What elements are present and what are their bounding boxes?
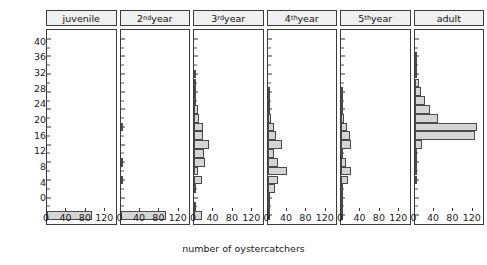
plot-y-tick bbox=[415, 47, 418, 48]
plot-y-tick bbox=[194, 65, 197, 66]
histogram-bar bbox=[415, 70, 418, 79]
plot-y-tick bbox=[47, 179, 51, 180]
histogram-bar bbox=[415, 158, 417, 167]
plot-y-tick bbox=[47, 188, 50, 189]
x-axis-adult: 04080120 bbox=[414, 208, 485, 230]
x-tick-mark bbox=[158, 208, 159, 211]
plot-y-tick bbox=[268, 74, 272, 75]
plot-y-tick bbox=[47, 38, 51, 39]
histogram-bar bbox=[341, 167, 351, 176]
x-tick-mark bbox=[398, 208, 399, 211]
histogram-bar bbox=[341, 184, 343, 193]
plot-y-tick bbox=[121, 65, 124, 66]
plot-y-tick bbox=[47, 135, 50, 136]
plot-y-tick bbox=[194, 47, 197, 48]
histogram-bar bbox=[194, 114, 199, 123]
histogram-bar bbox=[341, 114, 344, 123]
histogram-bar bbox=[341, 96, 343, 105]
histogram-bar bbox=[341, 105, 343, 114]
histogram-bar bbox=[341, 158, 346, 167]
x-tick-mark bbox=[414, 208, 415, 211]
plot-y-tick bbox=[268, 47, 271, 48]
plot-y-tick bbox=[121, 82, 124, 83]
plot-area bbox=[267, 29, 338, 225]
plot-y-tick bbox=[121, 171, 124, 172]
plot-y-tick bbox=[194, 197, 198, 198]
x-tick-label: 120 bbox=[463, 212, 481, 223]
x-tick-label: 120 bbox=[389, 212, 407, 223]
plot-y-tick bbox=[341, 56, 345, 57]
histogram-bar bbox=[341, 140, 351, 149]
histogram-bar bbox=[268, 167, 287, 176]
histogram-bar bbox=[341, 87, 343, 96]
histogram-bar bbox=[415, 79, 420, 88]
histogram-bar bbox=[194, 87, 196, 96]
x-axis-3rd-year: 04080120 bbox=[193, 208, 264, 230]
histogram-bar bbox=[194, 123, 203, 132]
x-axis-row: 0408012004080120040801200408012004080120… bbox=[46, 208, 484, 230]
panel-strip-label: 5th year bbox=[340, 10, 411, 26]
plot-y-tick bbox=[121, 197, 125, 198]
histogram-bar bbox=[268, 193, 270, 202]
x-tick-mark bbox=[251, 208, 252, 211]
histogram-bar bbox=[268, 87, 270, 96]
x-tick-mark bbox=[104, 208, 105, 211]
histogram-bar bbox=[194, 149, 204, 158]
histogram-bar bbox=[268, 184, 276, 193]
histogram-bar bbox=[194, 158, 205, 167]
plot-y-tick bbox=[341, 65, 344, 66]
histogram-bar bbox=[268, 114, 272, 123]
x-tick-label: 0 bbox=[263, 212, 269, 223]
plot-y-tick bbox=[47, 91, 51, 92]
plot-y-tick bbox=[121, 188, 124, 189]
x-tick-label: 40 bbox=[280, 212, 292, 223]
panel-2nd-year: 2nd year bbox=[120, 10, 191, 225]
plot-y-tick bbox=[268, 65, 271, 66]
plot-y-tick bbox=[47, 56, 51, 57]
x-axis-5th-year: 04080120 bbox=[340, 208, 411, 230]
histogram-bar bbox=[415, 87, 422, 96]
x-tick-mark bbox=[286, 208, 287, 211]
plot-y-tick bbox=[341, 47, 344, 48]
plot-y-tick bbox=[121, 47, 124, 48]
x-tick-mark bbox=[193, 208, 194, 211]
plot-y-tick bbox=[47, 127, 51, 128]
histogram-bar bbox=[194, 96, 196, 105]
panel-4th-year: 4th year bbox=[267, 10, 338, 225]
histogram-bar bbox=[415, 149, 417, 158]
plot-y-tick bbox=[47, 206, 50, 207]
x-axis-2nd-year: 04080120 bbox=[120, 208, 191, 230]
histogram-bar bbox=[415, 167, 417, 176]
plot-y-tick bbox=[121, 206, 124, 207]
plot-y-tick bbox=[341, 38, 345, 39]
plot-y-tick bbox=[415, 38, 419, 39]
panel-strip-label: adult bbox=[414, 10, 485, 26]
histogram-bar bbox=[194, 140, 209, 149]
histogram-bar bbox=[268, 105, 271, 114]
plot-y-tick bbox=[47, 100, 50, 101]
histogram-bar bbox=[341, 149, 343, 158]
histogram-bar bbox=[415, 131, 476, 140]
histogram-bar bbox=[415, 105, 431, 114]
x-tick-mark bbox=[65, 208, 66, 211]
x-tick-mark bbox=[212, 208, 213, 211]
plot-y-tick bbox=[47, 171, 50, 172]
x-tick-label: 120 bbox=[95, 212, 113, 223]
histogram-bar bbox=[268, 140, 282, 149]
histogram-bar bbox=[194, 79, 196, 88]
plot-y-tick bbox=[268, 82, 271, 83]
x-tick-label: 40 bbox=[427, 212, 439, 223]
panel-3rd-year: 3rd year bbox=[193, 10, 264, 225]
x-tick-label: 80 bbox=[299, 212, 311, 223]
plot-y-tick bbox=[47, 65, 50, 66]
plot-y-tick bbox=[121, 118, 124, 119]
x-tick-label: 0 bbox=[337, 212, 343, 223]
x-tick-mark bbox=[267, 208, 268, 211]
histogram-bar bbox=[194, 176, 202, 185]
plot-y-tick bbox=[121, 100, 124, 101]
plot-y-tick bbox=[121, 74, 125, 75]
x-tick-label: 80 bbox=[79, 212, 91, 223]
plot-y-tick bbox=[47, 162, 51, 163]
y-tick-label: 28 bbox=[34, 82, 46, 93]
histogram-bar bbox=[415, 96, 425, 105]
